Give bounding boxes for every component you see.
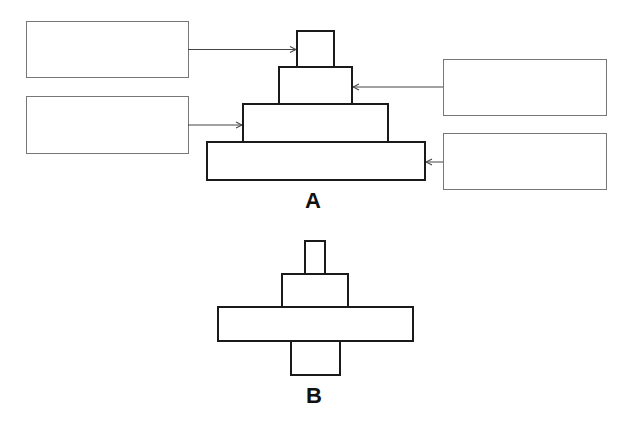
pyramid-a-tier-1	[297, 31, 334, 67]
figure-b-wide-block	[218, 307, 413, 341]
figure-b-label: B	[306, 383, 322, 409]
figure-b-second-block	[282, 274, 348, 307]
figure-b-top-block	[305, 241, 325, 274]
figure-a-label: A	[305, 188, 321, 214]
label-box-right-top[interactable]	[444, 60, 607, 116]
pyramid-a-tier-3	[243, 104, 388, 142]
label-box-right-bottom[interactable]	[444, 134, 607, 190]
pyramid-a-tier-4	[207, 142, 425, 180]
pyramid-a-tier-2	[279, 67, 352, 104]
figure-b-bottom-block	[291, 341, 340, 375]
label-box-left-bottom[interactable]	[27, 97, 189, 154]
label-box-left-top[interactable]	[27, 22, 189, 78]
